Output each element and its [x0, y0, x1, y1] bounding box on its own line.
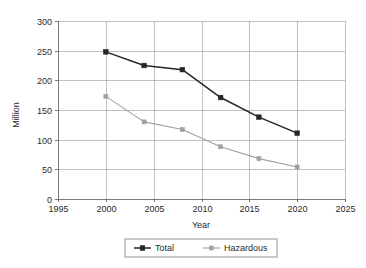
data-point-marker	[295, 165, 299, 169]
legend-swatch-marker	[140, 246, 145, 251]
y-axis-tick-label: 200	[37, 76, 52, 86]
y-axis-tick-label: 150	[37, 106, 52, 116]
data-point-marker	[104, 94, 108, 98]
legend-item-label: Total	[155, 243, 174, 253]
data-point-marker	[295, 131, 300, 136]
x-axis-tick-label: 2020	[287, 204, 307, 214]
data-point-marker	[180, 128, 184, 132]
y-axis-tick-label: 50	[42, 165, 52, 175]
data-point-marker	[218, 95, 223, 100]
data-point-marker	[257, 115, 262, 120]
data-point-marker	[104, 50, 109, 55]
data-point-marker	[142, 63, 147, 68]
y-axis-tick-label: 300	[37, 17, 52, 27]
y-axis-tick-label: 100	[37, 136, 52, 146]
x-axis-tick-label: 2025	[335, 204, 355, 214]
data-point-marker	[257, 157, 261, 161]
x-axis-tick-label: 2000	[96, 204, 116, 214]
x-axis-title: Year	[192, 220, 210, 230]
legend-item-label: Hazardous	[224, 243, 268, 253]
chart-background	[0, 0, 366, 268]
y-axis-title: Million	[11, 102, 21, 128]
chart-canvas: 050100150200250300 199520002005201020152…	[0, 0, 366, 268]
x-axis-tick-label: 2005	[144, 204, 164, 214]
legend-swatch-marker	[210, 246, 214, 250]
x-axis-tick-label: 2010	[192, 204, 212, 214]
data-point-marker	[219, 145, 223, 149]
data-point-marker	[180, 67, 185, 72]
x-axis-tick-label: 1995	[48, 204, 68, 214]
line-chart: 050100150200250300 199520002005201020152…	[0, 0, 366, 268]
data-point-marker	[142, 120, 146, 124]
y-axis-tick-label: 250	[37, 47, 52, 57]
chart-legend: TotalHazardous	[125, 239, 277, 257]
x-axis-tick-label: 2015	[239, 204, 259, 214]
